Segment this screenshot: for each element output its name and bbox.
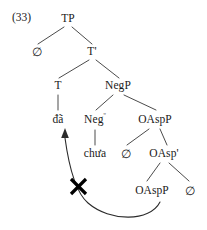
syntax-tree-figure: (33) TP ∅ T' T NegP đã Negº OAspP chưa ∅… (0, 0, 207, 230)
movement-arrowhead (61, 128, 69, 138)
movement-arrow-layer (0, 0, 207, 230)
movement-arrow-path (65, 138, 160, 217)
